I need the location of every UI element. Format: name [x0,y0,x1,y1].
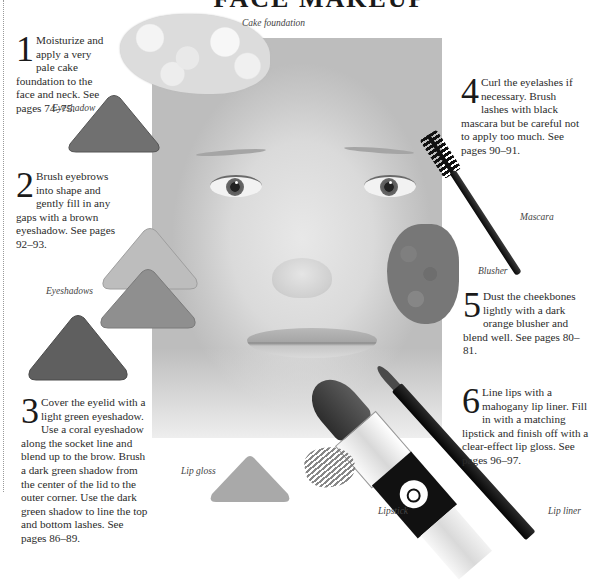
caption-lipstick: Lipstick [378,506,408,516]
step-number: 1 [16,35,34,63]
step-4: 4 Curl the eyelashes if necessary. Brush… [461,76,585,158]
page-margin-rule [3,0,4,492]
right-eye [364,175,416,197]
step-5: 5 Dust the cheekbones lightly with a dar… [463,290,587,358]
step-number: 3 [21,397,39,425]
lip-gloss-pan [208,454,292,504]
caption-eyeshadows: Eyeshadows [46,286,93,296]
step-6: 6 Line lips with a mahogany lip liner. F… [462,386,590,468]
blusher-powder-image [387,224,459,324]
step-3: 3 Cover the eyelid with a light green ey… [21,396,151,546]
step-number: 6 [462,387,480,415]
brown-eyeshadow-pan [66,94,162,158]
caption-lip-liner: Lip liner [548,506,581,516]
caption-blusher: Blusher [478,266,508,276]
right-eyebrow [344,146,414,156]
page-title: FACE MAKEUP [180,0,460,14]
left-eyebrow [196,148,266,158]
step-text: Cover the eyelid with a light green eyes… [21,396,147,544]
step-number: 5 [463,291,481,319]
step-number: 4 [461,77,479,105]
dark-green-eyeshadow-pan [26,314,130,384]
caption-cake-foundation: Cake foundation [242,18,305,28]
caption-mascara: Mascara [520,212,554,222]
mascara-handle [449,170,521,276]
nose [272,258,332,298]
step-number: 2 [16,171,34,199]
left-eye [210,175,262,197]
step-text: Line lips with a mahogany lip liner. Fil… [462,386,588,466]
